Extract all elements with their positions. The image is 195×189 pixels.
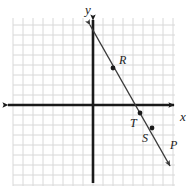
point-label-p: P — [170, 139, 177, 151]
point-label-s: S — [142, 132, 148, 144]
plot-canvas — [0, 0, 195, 189]
point-label-t: T — [130, 117, 137, 129]
point-dot-r — [111, 66, 116, 71]
point-dot-t — [138, 111, 143, 116]
y-axis-label: y — [85, 3, 91, 16]
point-dot-s — [150, 126, 155, 131]
point-label-r: R — [119, 54, 126, 66]
x-axis-label: x — [180, 110, 186, 123]
coordinate-plane-figure: x y R T S P — [0, 0, 195, 189]
